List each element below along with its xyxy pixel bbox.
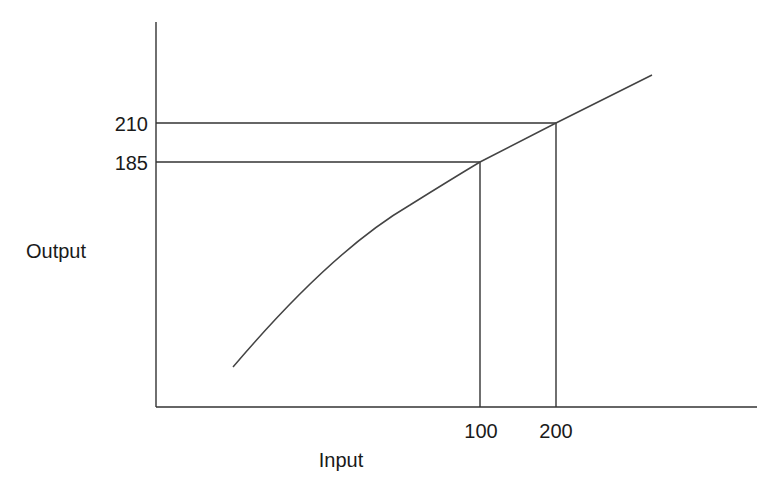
input-output-chart: 210 185 100 200 Output Input bbox=[0, 0, 775, 500]
x-tick-100: 100 bbox=[464, 420, 497, 442]
y-tick-210: 210 bbox=[115, 113, 148, 135]
x-tick-200: 200 bbox=[539, 420, 572, 442]
y-tick-185: 185 bbox=[115, 152, 148, 174]
x-axis-label: Input bbox=[319, 449, 364, 471]
output-curve bbox=[233, 75, 652, 367]
y-axis-label: Output bbox=[26, 240, 86, 262]
